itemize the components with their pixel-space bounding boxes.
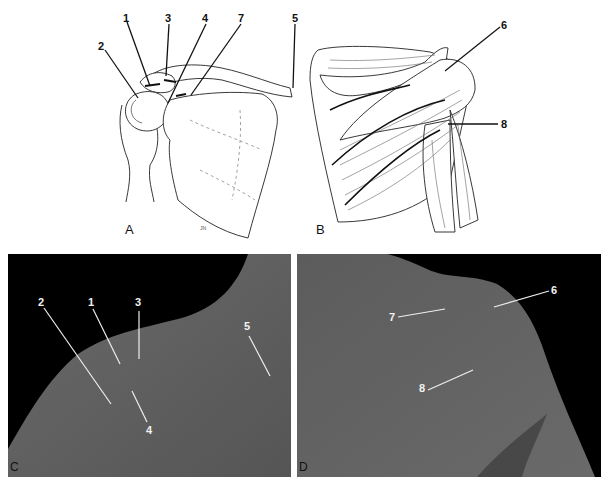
- panel-b: 6 8 B: [300, 0, 608, 245]
- panel-label-b: B: [316, 222, 325, 237]
- posterior-shoulder-photo: 7 6 8: [297, 254, 601, 477]
- panel-c: 2 1 3 4 5 C: [8, 254, 291, 477]
- shoulder-muscles-drawing: 6 8: [300, 0, 608, 245]
- callout-8: 8: [501, 118, 507, 130]
- panel-label-a: A: [125, 222, 134, 237]
- callout-5: 5: [292, 12, 298, 24]
- panel-label-c: C: [10, 460, 19, 474]
- callout-1: 1: [123, 12, 129, 24]
- panel-label-d: D: [299, 460, 308, 474]
- photo-callout-7: 7: [389, 311, 395, 323]
- panel-a: 1 2 3 4 7 5 JN A: [0, 0, 300, 245]
- artist-signature: JN: [200, 225, 207, 231]
- panel-d: 7 6 8 D: [297, 254, 601, 477]
- callout-6: 6: [501, 19, 507, 31]
- shoulder-skeleton-drawing: 1 2 3 4 7 5 JN: [0, 0, 300, 245]
- photo-callout-6: 6: [551, 284, 557, 296]
- callout-7: 7: [238, 12, 244, 24]
- photo-callout-1: 1: [88, 296, 94, 308]
- photo-callout-8: 8: [419, 382, 425, 394]
- photo-callout-2: 2: [38, 296, 44, 308]
- callout-4: 4: [202, 12, 209, 24]
- photo-callout-4: 4: [146, 424, 153, 436]
- photo-callout-5: 5: [244, 320, 250, 332]
- callout-2: 2: [98, 40, 104, 52]
- callout-3: 3: [165, 12, 171, 24]
- anterior-shoulder-photo: 2 1 3 4 5: [8, 254, 291, 477]
- photo-callout-3: 3: [135, 296, 141, 308]
